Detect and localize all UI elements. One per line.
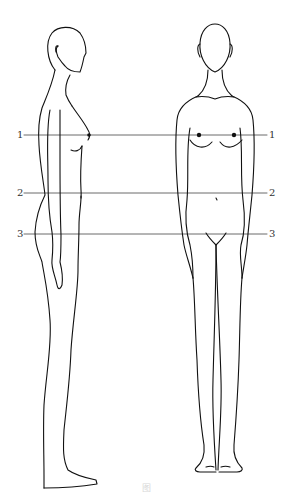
- body-diagram: 1 1 2 2 3 3 图: [0, 0, 293, 495]
- line-3-left-label: 3: [17, 229, 23, 239]
- front-view-figure: [176, 24, 254, 472]
- side-view-figure: [35, 27, 97, 488]
- body-outline-drawing: [0, 0, 293, 495]
- line-1-left-label: 1: [17, 130, 23, 140]
- line-1-right-label: 1: [269, 130, 275, 140]
- line-3-right-label: 3: [269, 229, 275, 239]
- figure-caption: 图: [0, 481, 293, 494]
- line-2-right-label: 2: [269, 188, 275, 198]
- line-2-left-label: 2: [17, 188, 23, 198]
